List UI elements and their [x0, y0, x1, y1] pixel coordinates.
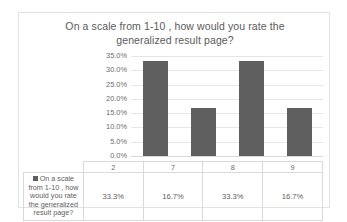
data-value-cell: 33.3% [83, 173, 143, 221]
chart-title-line-2: generalized result page? [29, 33, 321, 47]
y-axis-tick-label: 20.0% [89, 95, 127, 103]
data-value-cell: 33.3% [203, 173, 263, 221]
series-value-row: On a scale from 1-10 , how would you rat… [24, 173, 323, 221]
y-axis-tick-label: 5.0% [89, 138, 127, 146]
y-axis-tick-label: 35.0% [89, 52, 127, 60]
chart-title-line-1: On a scale from 1-10 , how would you rat… [29, 19, 321, 33]
chart-data-table: 2789 On a scale from 1-10 , how would yo… [23, 161, 323, 221]
gridline [131, 156, 323, 157]
legend-swatch-icon [33, 176, 38, 181]
y-axis-tick-label: 25.0% [89, 81, 127, 89]
bar [239, 61, 264, 156]
plot-region: 35.0%30.0%25.0%20.0%15.0%10.0%5.0%0.0% [19, 56, 329, 161]
legend-series-label: On a scale from 1-10 , how would you rat… [24, 173, 84, 221]
category-label-cell: 8 [203, 162, 263, 173]
chart-container: On a scale from 1-10 , how would you rat… [18, 12, 330, 208]
category-label-cell: 2 [83, 162, 143, 173]
plot-area [131, 56, 323, 156]
bar [143, 61, 168, 156]
bars-layer [131, 56, 323, 156]
y-axis-tick-label: 0.0% [89, 152, 127, 160]
chart-title: On a scale from 1-10 , how would you rat… [29, 19, 321, 47]
table-corner-cell [24, 162, 84, 173]
category-label-cell: 7 [143, 162, 203, 173]
category-label-cell: 9 [263, 162, 323, 173]
bar [191, 108, 216, 156]
bar [287, 108, 312, 156]
y-axis-tick-label: 30.0% [89, 66, 127, 74]
y-axis-tick-label: 10.0% [89, 123, 127, 131]
category-header-row: 2789 [24, 162, 323, 173]
data-value-cell: 16.7% [143, 173, 203, 221]
data-value-cell: 16.7% [263, 173, 323, 221]
y-axis-tick-label: 15.0% [89, 109, 127, 117]
y-axis: 35.0%30.0%25.0%20.0%15.0%10.0%5.0%0.0% [89, 56, 127, 156]
